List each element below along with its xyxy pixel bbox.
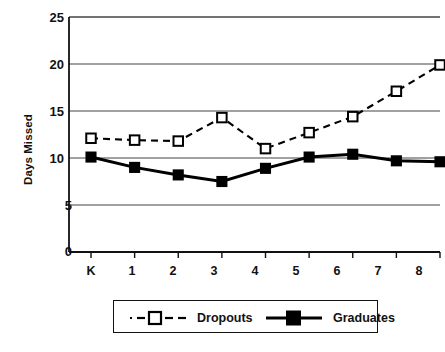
legend-label-dropouts: Dropouts — [197, 311, 253, 325]
data-point-graduates-6 — [348, 149, 358, 159]
legend-item-graduates: Graduates — [264, 301, 395, 334]
data-point-dropouts-3 — [217, 113, 227, 123]
legend-swatch-dropouts — [128, 309, 190, 327]
data-point-graduates-1 — [130, 163, 140, 173]
data-point-dropouts-1 — [130, 135, 140, 145]
legend: Dropouts Graduates — [113, 300, 378, 333]
data-point-graduates-4 — [261, 164, 271, 174]
data-point-dropouts-5 — [304, 128, 314, 137]
data-point-graduates-K — [86, 152, 96, 162]
series-dropouts — [86, 60, 445, 153]
series-graduates — [86, 149, 445, 186]
legend-swatch-graduates — [264, 309, 326, 327]
legend-item-dropouts: Dropouts — [128, 301, 253, 334]
data-point-graduates-8 — [435, 157, 445, 167]
data-point-dropouts-7 — [392, 87, 402, 97]
data-point-graduates-7 — [392, 156, 402, 166]
gridlines — [69, 17, 440, 252]
data-point-graduates-2 — [174, 170, 184, 180]
data-point-graduates-5 — [304, 152, 314, 162]
data-point-dropouts-2 — [174, 136, 184, 146]
axis-lines — [69, 17, 440, 252]
data-point-graduates-3 — [217, 177, 227, 187]
line-chart: Days Missed 25 20 15 10 5 0 K 1 2 3 4 5 … — [0, 0, 445, 352]
legend-label-graduates: Graduates — [333, 311, 395, 325]
data-point-dropouts-K — [86, 134, 96, 144]
data-point-dropouts-8 — [435, 60, 445, 70]
data-point-dropouts-6 — [348, 112, 358, 122]
data-point-dropouts-4 — [261, 144, 271, 154]
